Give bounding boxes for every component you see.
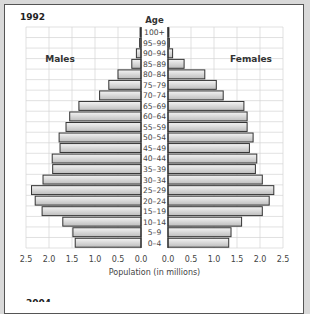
- chart-title: 1992: [20, 12, 45, 22]
- age-header: Age: [145, 15, 164, 25]
- bar-female-55–59: [168, 123, 247, 132]
- bar-female-0–4: [168, 238, 229, 247]
- bar-male-70–74: [100, 91, 141, 100]
- bar-male-35–39: [53, 165, 141, 174]
- bar-male-55–59: [66, 123, 141, 132]
- age-label: 25–29: [143, 186, 166, 195]
- age-label: 95–99: [143, 39, 166, 48]
- age-label: 0–4: [148, 239, 162, 248]
- bar-male-10–14: [63, 217, 141, 226]
- bar-male-30–34: [43, 175, 141, 184]
- age-label: 55–59: [143, 123, 166, 132]
- x-tick-male: 0.5: [112, 255, 125, 264]
- x-tick-male: 0.0: [135, 255, 148, 264]
- females-label: Females: [230, 54, 272, 64]
- bar-female-90–94: [168, 49, 173, 58]
- bar-female-75–79: [168, 80, 216, 89]
- age-label: 10–14: [143, 218, 166, 227]
- age-label: 100+: [144, 28, 165, 37]
- bar-male-60–64: [70, 112, 141, 121]
- age-label: 30–34: [143, 176, 166, 185]
- bar-male-20–24: [35, 196, 141, 205]
- bar-female-85–89: [168, 59, 184, 68]
- x-axis-label: Population (in millions): [109, 268, 200, 277]
- x-tick-female: 1.5: [231, 255, 244, 264]
- x-tick-male: 1.5: [66, 255, 79, 264]
- age-label: 15–19: [143, 207, 166, 216]
- age-label: 20–24: [143, 197, 166, 206]
- age-label: 45–49: [143, 144, 166, 153]
- x-tick-female: 2.5: [277, 255, 290, 264]
- bar-male-75–79: [109, 80, 141, 89]
- bar-male-50–54: [59, 133, 141, 142]
- bar-male-25–29: [32, 186, 141, 195]
- bar-female-70–74: [168, 91, 223, 100]
- bar-male-40–44: [52, 154, 141, 163]
- age-label: 65–69: [143, 102, 166, 111]
- age-label: 5–9: [148, 228, 162, 237]
- age-label: 75–79: [143, 81, 166, 90]
- bar-female-20–24: [168, 196, 269, 205]
- age-label: 85–89: [143, 60, 166, 69]
- bar-female-45–49: [168, 144, 249, 153]
- bar-female-40–44: [168, 154, 257, 163]
- x-tick-female: 0.0: [162, 255, 175, 264]
- age-label: 60–64: [143, 112, 166, 121]
- x-tick-male: 1.0: [89, 255, 102, 264]
- bar-male-0–4: [75, 238, 141, 247]
- bar-female-65–69: [168, 101, 244, 110]
- x-tick-female: 1.0: [208, 255, 221, 264]
- bar-female-35–39: [168, 165, 255, 174]
- bar-female-10–14: [168, 217, 242, 226]
- age-label: 35–39: [143, 165, 166, 174]
- bar-male-90–94: [136, 49, 141, 58]
- bar-female-15–19: [168, 207, 262, 216]
- bar-male-80–84: [118, 70, 141, 79]
- bar-female-5–9: [168, 228, 231, 237]
- males-label: Males: [45, 54, 75, 64]
- x-tick-male: 2.0: [43, 255, 56, 264]
- bar-female-30–34: [168, 175, 262, 184]
- x-tick-male: 2.5: [20, 255, 33, 264]
- age-label: 70–74: [143, 91, 166, 100]
- age-label: 90–94: [143, 49, 166, 58]
- age-label: 50–54: [143, 133, 166, 142]
- bar-female-25–29: [168, 186, 274, 195]
- bar-female-80–84: [168, 70, 205, 79]
- bar-female-60–64: [168, 112, 247, 121]
- age-label: 80–84: [143, 70, 166, 79]
- next-chart-title: 2004: [26, 298, 51, 302]
- bar-female-50–54: [168, 133, 253, 142]
- bar-male-15–19: [42, 207, 141, 216]
- x-tick-female: 0.5: [185, 255, 198, 264]
- bar-male-65–69: [79, 101, 141, 110]
- x-tick-female: 2.0: [254, 255, 267, 264]
- bar-male-45–49: [60, 144, 141, 153]
- bar-male-5–9: [73, 228, 141, 237]
- age-label: 40–44: [143, 154, 166, 163]
- bar-male-85–89: [132, 59, 141, 68]
